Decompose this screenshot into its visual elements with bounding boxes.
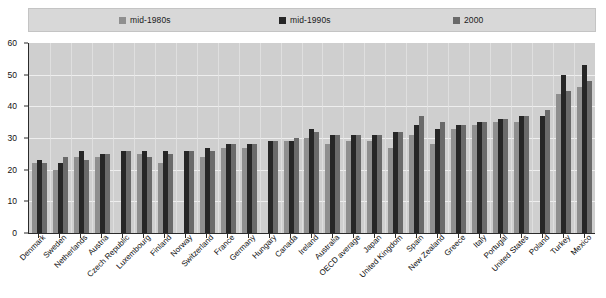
bar-group [511,43,532,233]
bar-group [574,43,595,233]
x-tick-label-denmark: Denmark [19,233,48,262]
bar-group [343,43,364,233]
bar-group [92,43,113,233]
x-axis-labels: DenmarkSwedenNetherlandsAustriaCzech Rep… [0,233,606,298]
x-tick-label-poland: Poland [527,233,551,257]
bar [503,119,508,233]
bar [314,132,319,233]
bar [461,125,466,233]
bar [273,141,278,233]
bar-group [29,43,50,233]
bar [231,144,236,233]
bar [42,163,47,233]
plot-area [28,43,595,234]
bar-group [260,43,281,233]
bar [84,160,89,233]
y-tick-label-40: 40 [0,101,17,111]
bar-group [469,43,490,233]
square-swatch-icon [119,17,126,24]
legend-label: mid-1980s [130,15,171,25]
x-tick-label-italy: Italy [471,233,488,250]
bar-group [302,43,323,233]
y-tick-label-10: 10 [0,196,17,206]
bar [419,116,424,233]
legend-label: 2000 [464,15,483,25]
bar [168,154,173,233]
x-tick-label-turkey: Turkey [548,233,571,256]
bar [356,135,361,233]
bar [63,157,68,233]
square-swatch-icon [453,17,460,24]
bar [524,116,529,233]
bar [482,122,487,233]
bar-group [239,43,260,233]
bar [440,122,445,233]
legend-item-2: 2000 [453,9,483,31]
bar-group [218,43,239,233]
legend-label: mid-1990s [290,15,331,25]
bar-group [553,43,574,233]
bar [377,135,382,233]
bar-group [448,43,469,233]
bar [335,135,340,233]
bar-group [532,43,553,233]
bar-series-container [29,43,595,233]
bar [126,151,131,233]
bar [545,110,550,234]
bar [210,151,215,233]
square-swatch-icon [279,17,286,24]
bar [189,151,194,233]
bar-group [281,43,302,233]
y-tick-label-50: 50 [0,70,17,80]
bar-group [134,43,155,233]
bar [398,132,403,233]
x-tick-label-greece: Greece [442,233,467,258]
y-tick-label-60: 60 [0,38,17,48]
bar-group [385,43,406,233]
bar [587,81,592,233]
bar-group [364,43,385,233]
bar-group [197,43,218,233]
bar [147,157,152,233]
bar [566,91,571,234]
x-tick-label-mexico: Mexico [569,233,593,257]
bar-group [113,43,134,233]
bar-group [155,43,176,233]
bar [252,144,257,233]
figure-footnote [374,293,604,298]
bar-group [490,43,511,233]
y-axis: 0102030405060 [0,43,24,233]
y-tick-label-30: 30 [0,133,17,143]
legend-item-0: mid-1980s [119,9,171,31]
chart-legend: mid-1980smid-1990s2000 [28,8,596,32]
y-tick-label-20: 20 [0,165,17,175]
bar [294,138,299,233]
bar-group [71,43,92,233]
bar-group [176,43,197,233]
legend-item-1: mid-1990s [279,9,331,31]
bar-group [50,43,71,233]
bar-group [406,43,427,233]
bar [105,154,110,233]
bar-group [427,43,448,233]
x-tick-label-canada: Canada [273,233,299,259]
bar-group [322,43,343,233]
chart-figure: mid-1980smid-1990s2000 0102030405060 Den… [0,0,606,298]
